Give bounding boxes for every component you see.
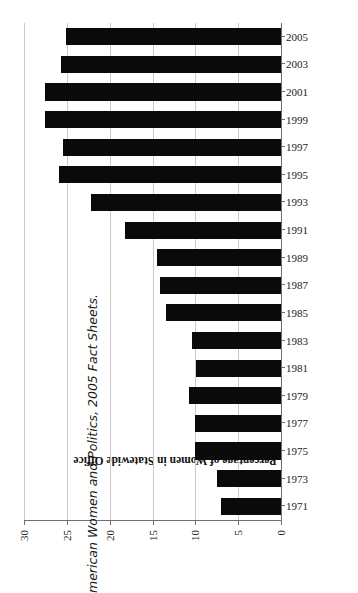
bar: [189, 387, 281, 404]
x-axis-tick-label: 1975: [286, 444, 308, 456]
y-axis-tick-label: 20: [104, 530, 116, 541]
x-axis-tick: [281, 477, 285, 478]
y-axis-tick-label: 25: [61, 530, 73, 541]
x-axis-tick-label: 1995: [286, 168, 308, 180]
plot-wrapper: Percentage of Women in Statewide Office …: [16, 7, 334, 567]
y-axis-tick: [238, 520, 239, 525]
bar: [66, 28, 281, 45]
x-axis-tick: [281, 422, 285, 423]
bar: [195, 414, 281, 431]
x-axis-tick: [281, 449, 285, 450]
y-axis-tick: [110, 520, 111, 525]
x-axis-tick-label: 1985: [286, 306, 308, 318]
x-axis-tick-label: 1999: [286, 113, 308, 125]
x-axis-tick-label: 2003: [286, 58, 308, 70]
x-axis-tick: [281, 229, 285, 230]
x-axis-tick-label: 1993: [286, 196, 308, 208]
x-axis-tick: [281, 367, 285, 368]
bar: [217, 470, 281, 487]
x-axis-tick-label: 2001: [286, 86, 308, 98]
x-axis-tick-label: 1971: [286, 500, 308, 512]
x-axis-tick: [281, 63, 285, 64]
x-axis-tick: [281, 284, 285, 285]
x-axis-tick-label: 1973: [286, 472, 308, 484]
y-axis-tick-label: 30: [18, 530, 30, 541]
x-axis-tick: [281, 173, 285, 174]
x-axis-tick: [281, 311, 285, 312]
y-axis-tick-label: 5: [232, 530, 244, 536]
x-axis-tick: [281, 505, 285, 506]
bar: [63, 138, 281, 155]
bar: [166, 304, 281, 321]
y-axis-tick: [67, 520, 68, 525]
x-axis-tick-label: 1991: [286, 224, 308, 236]
y-axis-tick-label: 10: [189, 530, 201, 541]
figure-root: Percentage of Women in Statewide Office …: [0, 0, 358, 593]
x-axis-tick-label: 1997: [286, 141, 308, 153]
x-axis-tick: [281, 91, 285, 92]
bar: [192, 331, 281, 348]
x-axis-tick: [281, 201, 285, 202]
x-axis-tick-label: 1987: [286, 279, 308, 291]
x-axis-tick-label: 1981: [286, 362, 308, 374]
bar: [91, 193, 281, 210]
bar: [221, 497, 281, 514]
bar: [125, 221, 281, 238]
x-axis-tick-label: 2005: [286, 30, 308, 42]
y-axis-tick-label: 15: [147, 530, 159, 541]
x-axis-tick-label: 1989: [286, 251, 308, 263]
x-axis-tick-label: 1983: [286, 334, 308, 346]
bar: [45, 111, 281, 128]
y-axis-tick-label: 0: [275, 530, 287, 536]
y-axis-tick: [281, 520, 282, 525]
x-axis-tick: [281, 394, 285, 395]
x-axis-tick-label: 1977: [286, 417, 308, 429]
bar: [61, 55, 281, 72]
x-axis-tick-label: 1979: [286, 389, 308, 401]
bar-series: [24, 23, 281, 520]
bar: [160, 276, 281, 293]
y-axis-tick: [153, 520, 154, 525]
bar: [45, 83, 281, 100]
bar: [195, 442, 281, 459]
x-axis-tick: [281, 339, 285, 340]
y-axis-tick: [24, 520, 25, 525]
source-note: Source: Compiled by author from Center f…: [85, 321, 100, 593]
x-axis-tick: [281, 35, 285, 36]
x-axis-tick: [281, 256, 285, 257]
rotated-chart-container: Percentage of Women in Statewide Office …: [16, 7, 334, 567]
y-axis-tick: [195, 520, 196, 525]
bar: [59, 166, 281, 183]
bar: [196, 359, 281, 376]
bar: [157, 249, 281, 266]
x-axis-tick: [281, 118, 285, 119]
plot-area: 051015202530 197119731975197719791981198…: [24, 23, 282, 521]
x-axis-tick: [281, 146, 285, 147]
